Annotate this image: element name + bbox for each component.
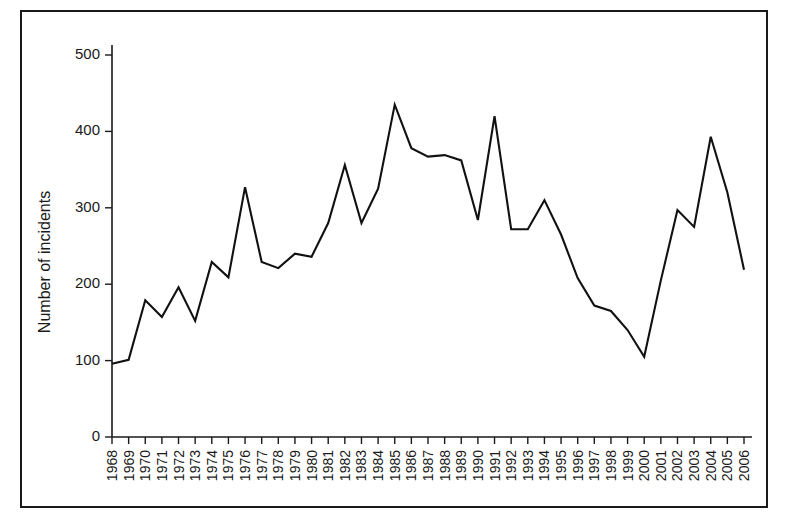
x-tick-label: 1976: [237, 450, 253, 481]
x-axis: 1968196919701971197219731974197519761977…: [104, 437, 752, 481]
line-chart: 0100200300400500 19681969197019711972197…: [22, 12, 770, 510]
x-tick-label: 1991: [487, 450, 503, 481]
x-tick-label: 1995: [553, 450, 569, 481]
x-tick-label: 1977: [254, 450, 270, 481]
chart-plot-area: 0100200300400500 19681969197019711972197…: [22, 12, 770, 510]
x-tick-label: 1981: [320, 450, 336, 481]
x-tick-label: 1988: [437, 450, 453, 481]
y-tick-label: 400: [75, 121, 100, 138]
data-series-line: [112, 105, 744, 364]
x-tick-label: 1982: [337, 450, 353, 481]
x-tick-label: 1996: [570, 450, 586, 481]
x-tick-label: 1987: [420, 450, 436, 481]
x-tick-label: 2000: [636, 450, 652, 481]
series-line-number-of-incidents: [112, 105, 744, 364]
y-tick-label: 300: [75, 198, 100, 215]
x-tick-label: 1989: [453, 450, 469, 481]
x-tick-label: 1975: [220, 450, 236, 481]
y-tick-label: 200: [75, 274, 100, 291]
y-axis-title: Number of incidents: [36, 191, 53, 333]
x-tick-label: 1973: [187, 450, 203, 481]
x-tick-label: 1999: [620, 450, 636, 481]
x-tick-label: 1990: [470, 450, 486, 481]
x-tick-label: 1971: [154, 450, 170, 481]
x-tick-label: 1980: [304, 450, 320, 481]
x-tick-label: 1978: [270, 450, 286, 481]
y-axis: 0100200300400500: [75, 45, 112, 444]
x-tick-label: 1968: [104, 450, 120, 481]
x-tick-label: 1994: [536, 450, 552, 481]
x-tick-label: 1998: [603, 450, 619, 481]
x-tick-label: 2005: [719, 450, 735, 481]
y-tick-label: 100: [75, 351, 100, 368]
x-tick-label: 1970: [137, 450, 153, 481]
x-tick-label: 2003: [686, 450, 702, 481]
x-tick-label: 2002: [669, 450, 685, 481]
y-tick-label: 500: [75, 45, 100, 62]
x-tick-label: 1986: [403, 450, 419, 481]
x-tick-label: 2001: [653, 450, 669, 481]
x-tick-label: 1985: [387, 450, 403, 481]
x-tick-label: 1997: [586, 450, 602, 481]
x-tick-label: 1974: [204, 450, 220, 481]
x-tick-label: 1979: [287, 450, 303, 481]
x-tick-label: 1969: [121, 450, 137, 481]
y-tick-label: 0: [92, 427, 100, 444]
x-tick-label: 2006: [736, 450, 752, 481]
x-tick-label: 2004: [703, 450, 719, 481]
x-tick-label: 1972: [171, 450, 187, 481]
x-tick-label: 1983: [353, 450, 369, 481]
x-tick-label: 1993: [520, 450, 536, 481]
x-tick-label: 1984: [370, 450, 386, 481]
x-tick-label: 1992: [503, 450, 519, 481]
figure-frame: 0100200300400500 19681969197019711972197…: [20, 10, 768, 508]
